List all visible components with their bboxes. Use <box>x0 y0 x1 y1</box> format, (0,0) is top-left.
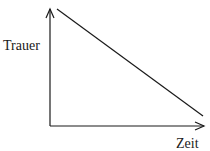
y-axis-label: Trauer <box>3 38 40 53</box>
grief-over-time-diagram: Trauer Zeit <box>0 0 210 151</box>
x-axis-label: Zeit <box>176 136 199 151</box>
grief-decline-line <box>57 9 203 116</box>
